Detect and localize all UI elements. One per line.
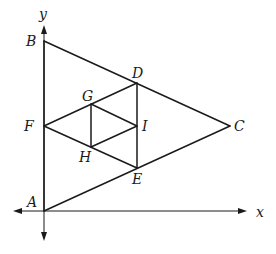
label-g: G: [82, 88, 93, 104]
point-labels: A B C D E F G H I: [23, 33, 245, 210]
label-c: C: [234, 118, 245, 134]
label-h: H: [78, 149, 92, 165]
label-b: B: [25, 33, 36, 49]
segment-hi: [91, 126, 137, 147]
label-a: A: [25, 194, 37, 210]
x-axis-arrow-right-icon: [238, 208, 247, 214]
geometry-diagram: x y A B C D E F G H I: [0, 0, 276, 254]
label-f: F: [23, 118, 35, 134]
triangle-ghi: [91, 104, 137, 147]
x-axis-arrow-left-icon: [13, 208, 22, 214]
y-axis-label: y: [38, 6, 48, 22]
label-d: D: [131, 65, 143, 81]
y-axis-arrow-up-icon: [41, 25, 47, 34]
x-axis-label: x: [256, 204, 264, 220]
y-axis-arrow-down-icon: [41, 232, 47, 241]
label-i: I: [141, 118, 148, 134]
label-e: E: [131, 171, 142, 187]
segment-ig: [91, 104, 137, 126]
